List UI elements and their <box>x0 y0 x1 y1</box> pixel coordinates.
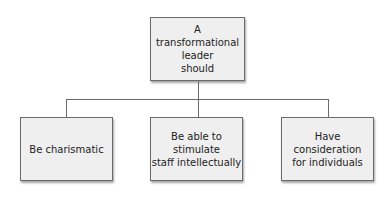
root-node-label: A transformational leader should <box>151 23 244 75</box>
child-node-3-label: Have consideration for individuals <box>282 130 373 169</box>
child-node-3: Have consideration for individuals <box>281 117 374 181</box>
child-node-2: Be able to stimulate staff intellectuall… <box>150 117 243 181</box>
child-node-2-label: Be able to stimulate staff intellectuall… <box>151 130 242 169</box>
child-node-1: Be charismatic <box>20 117 113 181</box>
child-connector-3 <box>328 99 329 117</box>
root-node: A transformational leader should <box>150 17 245 81</box>
child-connector-1 <box>66 99 67 117</box>
child-node-1-label: Be charismatic <box>29 143 103 156</box>
root-connector <box>198 81 199 100</box>
child-connector-2 <box>198 99 199 117</box>
